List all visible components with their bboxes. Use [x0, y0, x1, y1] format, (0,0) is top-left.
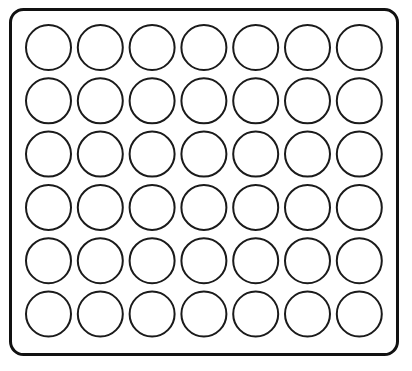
well-F1[interactable] [26, 292, 71, 337]
well-F5[interactable] [233, 292, 278, 337]
well-E7[interactable] [337, 238, 382, 283]
well-E4[interactable] [181, 238, 226, 283]
well-B4[interactable] [181, 78, 226, 123]
well-C3[interactable] [130, 132, 175, 177]
well-E6[interactable] [285, 238, 330, 283]
well-F4[interactable] [181, 292, 226, 337]
well-D3[interactable] [130, 185, 175, 230]
well-F2[interactable] [78, 292, 123, 337]
well-D6[interactable] [285, 185, 330, 230]
well-E2[interactable] [78, 238, 123, 283]
well-C7[interactable] [337, 132, 382, 177]
well-B5[interactable] [233, 78, 278, 123]
well-A3[interactable] [130, 25, 175, 70]
well-A1[interactable] [26, 25, 71, 70]
well-F6[interactable] [285, 292, 330, 337]
well-E1[interactable] [26, 238, 71, 283]
well-B2[interactable] [78, 78, 123, 123]
well-D7[interactable] [337, 185, 382, 230]
well-A4[interactable] [181, 25, 226, 70]
well-C5[interactable] [233, 132, 278, 177]
well-C2[interactable] [78, 132, 123, 177]
well-A7[interactable] [337, 25, 382, 70]
well-F3[interactable] [130, 292, 175, 337]
well-A5[interactable] [233, 25, 278, 70]
tray-diagram [0, 0, 412, 371]
well-D1[interactable] [26, 185, 71, 230]
well-E3[interactable] [130, 238, 175, 283]
well-E5[interactable] [233, 238, 278, 283]
well-B6[interactable] [285, 78, 330, 123]
well-C4[interactable] [181, 132, 226, 177]
well-D5[interactable] [233, 185, 278, 230]
well-A2[interactable] [78, 25, 123, 70]
well-B7[interactable] [337, 78, 382, 123]
well-D4[interactable] [181, 185, 226, 230]
well-B1[interactable] [26, 78, 71, 123]
well-D2[interactable] [78, 185, 123, 230]
well-C1[interactable] [26, 132, 71, 177]
well-A6[interactable] [285, 25, 330, 70]
canvas [0, 0, 412, 371]
well-B3[interactable] [130, 78, 175, 123]
well-F7[interactable] [337, 292, 382, 337]
well-C6[interactable] [285, 132, 330, 177]
